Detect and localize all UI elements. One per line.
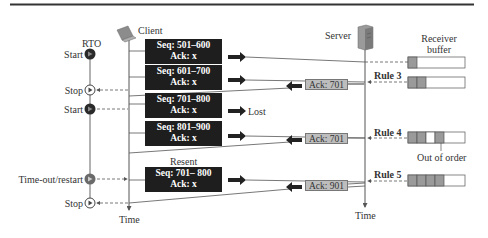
segment-seq: Seq: 801–900 — [145, 122, 222, 133]
rule-3-label: Rule 3 — [374, 70, 402, 81]
segment-arrows — [228, 52, 246, 185]
receiver-buffer-1 — [408, 57, 465, 68]
lost-label: Lost — [248, 106, 266, 117]
timer-label-stop-1: Stop — [65, 85, 83, 96]
segment-box-3: Seq: 701–800 Ack: x — [145, 93, 222, 118]
ack-box-3: Ack: 901 — [305, 180, 348, 191]
client-label: Client — [138, 25, 162, 36]
server-label: Server — [325, 30, 351, 41]
timer-label-restart: Time-out/restart — [18, 174, 83, 185]
timer-label-start-1: Start — [64, 49, 83, 60]
segment-seq: Seq: 701–800 — [145, 94, 222, 105]
segment-seq: Seq: 601–700 — [145, 66, 222, 77]
rule-5-label: Rule 5 — [374, 169, 402, 180]
server-time-label: Time — [355, 210, 376, 221]
timer-stop-icon-1 — [85, 85, 95, 95]
laptop-icon — [117, 26, 136, 42]
receiver-buffer-3 — [408, 132, 465, 151]
segment-box-1: Seq: 501–600 Ack: x — [145, 39, 222, 64]
segment-ack: Ack: x — [145, 51, 222, 62]
out-of-order-label: Out of order — [417, 152, 466, 163]
timer-start-icon-2 — [85, 104, 96, 115]
segment-ack: Ack: x — [145, 133, 222, 144]
ack-box-1: Ack: 701 — [305, 79, 348, 90]
segment-box-5-resent: Seq: 701– 800 Ack: x — [145, 167, 222, 192]
server-icon — [358, 25, 373, 50]
segment-ack: Ack: x — [145, 105, 222, 116]
timer-restart-icon — [85, 174, 96, 185]
resent-label: Resent — [170, 156, 197, 167]
rto-label: RTO — [82, 38, 101, 49]
segment-ack: Ack: x — [145, 179, 222, 190]
timer-start-icon-1 — [85, 49, 96, 60]
receiver-buffer-label: Receiver buffer — [418, 33, 460, 55]
segment-seq: Seq: 501–600 — [145, 40, 222, 51]
segment-box-4: Seq: 801–900 Ack: x — [145, 121, 222, 146]
timer-stop-icon-2 — [85, 198, 95, 208]
timer-label-start-2: Start — [64, 104, 83, 115]
receiver-buffer-2 — [408, 77, 465, 88]
receiver-label-line2: buffer — [418, 44, 460, 55]
segment-seq: Seq: 701– 800 — [145, 168, 222, 179]
client-time-label: Time — [119, 214, 140, 225]
segment-ack: Ack: x — [145, 77, 222, 88]
segment-box-2: Seq: 601–700 Ack: x — [145, 65, 222, 90]
timer-label-stop-2: Stop — [65, 198, 83, 209]
ack-box-2: Ack: 701 — [305, 133, 348, 144]
rule-4-label: Rule 4 — [374, 127, 402, 138]
receiver-label-line1: Receiver — [418, 33, 460, 44]
receiver-buffer-4 — [408, 175, 465, 186]
